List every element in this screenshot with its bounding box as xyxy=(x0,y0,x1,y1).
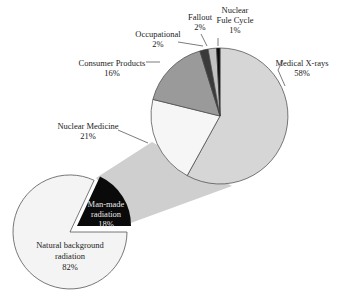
breakdown-pie xyxy=(151,48,288,184)
label-nucmed-name: Nuclear Medicine xyxy=(57,121,118,131)
label-natural-name-2: radiation xyxy=(55,251,86,261)
label-consumer-pct: 16% xyxy=(104,68,120,78)
radiation-pie-chart: Natural background radiation 82% Man-mad… xyxy=(0,0,343,298)
label-fuel-pct: 1% xyxy=(229,25,240,35)
label-occupational-pct: 2% xyxy=(152,39,163,49)
label-consumer-name: Consumer Products xyxy=(79,58,146,68)
label-fuel-name-2: Fule Cycle xyxy=(216,15,253,25)
label-natural-name: Natural background xyxy=(36,240,104,250)
label-fuel-name: Nuclear xyxy=(222,5,249,15)
label-fallout-name: Fallout xyxy=(188,12,213,22)
label-nucmed-pct: 21% xyxy=(80,131,96,141)
label-fallout-pct: 2% xyxy=(194,22,205,32)
label-manmade-name: Man-made xyxy=(88,199,125,209)
label-manmade-name-2: radiation xyxy=(91,209,122,219)
label-manmade-pct: 18% xyxy=(98,219,114,229)
label-medical-pct: 58% xyxy=(294,68,310,78)
label-natural-pct: 82% xyxy=(62,262,78,272)
label-medical-name: Medical X-rays xyxy=(275,58,328,68)
label-occupational-name: Occupational xyxy=(135,29,181,39)
